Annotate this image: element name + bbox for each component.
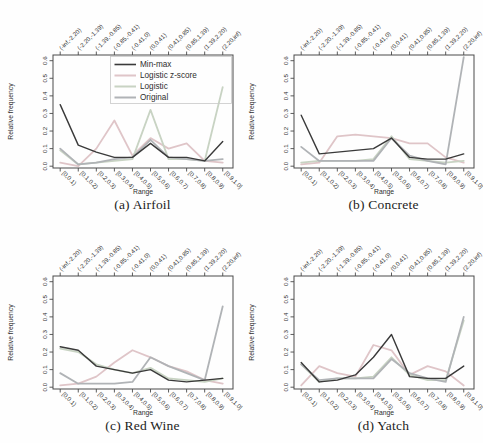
chart-svg: 0.00.10.20.30.40.50.6Relative frequency[… xyxy=(241,221,482,418)
x-tick-label-bottom: [0.8,0.9) xyxy=(205,169,226,190)
legend-label-min-max: Min-max xyxy=(140,60,171,69)
y-axis-title: Relative frequency xyxy=(248,304,256,361)
x-tick-label-bottom: [0.6,0.7) xyxy=(410,390,431,411)
series-line-original xyxy=(301,317,464,382)
x-tick-label-bottom: [0.7,0.8) xyxy=(187,390,208,411)
legend-label-logistic-z-score: Logistic z-score xyxy=(140,71,197,80)
chart-panel-yatch: 0.00.10.20.30.40.50.6Relative frequency[… xyxy=(241,221,482,442)
x-tick-label-bottom: [0.8,0.9) xyxy=(446,390,467,411)
x-tick-label-bottom: [0.7,0.8) xyxy=(187,169,208,190)
y-tick-label: 0.1 xyxy=(282,144,289,153)
chart-panel-concrete: 0.00.10.20.30.40.50.6Relative frequency[… xyxy=(241,0,482,221)
x-tick-label-bottom: [0.2,0.3) xyxy=(338,169,359,190)
y-axis-title: Relative frequency xyxy=(7,304,15,361)
x-tick-label-bottom: [0.5,0.6) xyxy=(151,169,172,190)
y-tick-label: 0.4 xyxy=(41,312,48,321)
x-tick-label-bottom: [0.2,0.3) xyxy=(338,390,359,411)
y-tick-label: 0.1 xyxy=(41,144,48,153)
x-tick-label-bottom: [0.8,0.9) xyxy=(446,169,467,190)
chart-panel-airfoil: 0.00.10.20.30.40.50.6Relative frequency[… xyxy=(0,0,241,221)
x-axis-title: Range xyxy=(374,188,394,196)
figure-grid: 0.00.10.20.30.40.50.6Relative frequency[… xyxy=(0,0,483,443)
legend: Min-maxLogistic z-scoreLogisticOriginal xyxy=(111,57,232,104)
series-line-logistic xyxy=(301,320,464,382)
x-tick-label-bottom: [0.7,0.8) xyxy=(428,390,449,411)
x-tick-label-bottom: [0,0.1) xyxy=(302,169,319,186)
y-tick-label: 0.4 xyxy=(282,312,289,321)
x-axis-title: Range xyxy=(374,409,394,417)
y-tick-label: 0.0 xyxy=(41,161,48,170)
y-tick-label: 0.5 xyxy=(282,73,289,82)
x-tick-label-bottom: [0.9,1.0] xyxy=(465,390,483,411)
chart-caption-redwine: (c) Red Wine xyxy=(0,418,241,434)
y-tick-label: 0.1 xyxy=(41,365,48,374)
chart-svg: 0.00.10.20.30.40.50.6Relative frequency[… xyxy=(0,0,241,197)
x-tick-label-bottom: [0,0.1) xyxy=(302,390,319,407)
y-tick-label: 0.6 xyxy=(41,56,48,65)
y-tick-label: 0.6 xyxy=(282,56,289,65)
x-tick-label-bottom: [0.6,0.7) xyxy=(169,390,190,411)
x-tick-label-bottom: [0.1,0.2) xyxy=(320,390,341,411)
x-tick-label-bottom: [0.5,0.6) xyxy=(151,390,172,411)
x-tick-label-bottom: [0.8,0.9) xyxy=(205,390,226,411)
plot-frame xyxy=(294,55,474,168)
chart-svg: 0.00.10.20.30.40.50.6Relative frequency[… xyxy=(0,221,241,418)
y-tick-label: 0.1 xyxy=(282,365,289,374)
y-tick-label: 0.4 xyxy=(41,91,48,100)
legend-label-logistic: Logistic xyxy=(140,82,168,91)
x-tick-label-bottom: [0.5,0.6) xyxy=(392,169,413,190)
x-tick-label-top: (0,0.41) xyxy=(389,31,409,51)
y-tick-label: 0.3 xyxy=(41,330,48,339)
x-tick-label-bottom: [0.5,0.6) xyxy=(392,390,413,411)
y-tick-label: 0.3 xyxy=(282,109,289,118)
series-line-original xyxy=(301,57,464,164)
y-tick-label: 0.0 xyxy=(282,161,289,170)
x-axis-title: Range xyxy=(133,188,153,196)
x-tick-label-bottom: [0.6,0.7) xyxy=(169,169,190,190)
series-line-min-max xyxy=(301,334,464,381)
y-tick-label: 0.2 xyxy=(282,347,289,356)
chart-caption-airfoil: (a) Airfoil xyxy=(0,197,241,213)
y-tick-label: 0.5 xyxy=(41,73,48,82)
x-tick-label-bottom: [0.7,0.8) xyxy=(428,169,449,190)
y-tick-label: 0.3 xyxy=(41,109,48,118)
x-tick-label-bottom: [0.1,0.2) xyxy=(79,169,100,190)
y-tick-label: 0.6 xyxy=(282,277,289,286)
y-tick-label: 0.0 xyxy=(41,382,48,391)
x-tick-label-bottom: [0.9,1.0] xyxy=(465,169,483,190)
chart-svg: 0.00.10.20.30.40.50.6Relative frequency[… xyxy=(241,0,482,197)
y-axis-title: Relative frequency xyxy=(248,83,256,140)
x-tick-label-top: (0,0.41) xyxy=(389,252,409,272)
y-tick-label: 0.6 xyxy=(41,277,48,286)
chart-caption-yatch: (d) Yatch xyxy=(241,418,482,434)
y-tick-label: 0.5 xyxy=(282,294,289,303)
x-axis-title: Range xyxy=(133,409,153,417)
x-tick-label-top: (0,0.41) xyxy=(148,31,168,51)
x-tick-label-top: (0,0.41) xyxy=(148,252,168,272)
y-tick-label: 0.2 xyxy=(41,347,48,356)
x-tick-label-bottom: [0.1,0.2) xyxy=(79,390,100,411)
y-tick-label: 0.2 xyxy=(282,126,289,135)
x-tick-label-bottom: [0.6,0.7) xyxy=(410,169,431,190)
chart-panel-redwine: 0.00.10.20.30.40.50.6Relative frequency[… xyxy=(0,221,241,442)
x-tick-label-bottom: [0.1,0.2) xyxy=(320,169,341,190)
x-tick-label-bottom: [0,0.1) xyxy=(61,169,78,186)
legend-label-original: Original xyxy=(140,93,168,102)
y-tick-label: 0.2 xyxy=(41,126,48,135)
chart-caption-concrete: (b) Concrete xyxy=(241,197,482,213)
y-tick-label: 0.5 xyxy=(41,294,48,303)
x-tick-label-bottom: [0,0.1) xyxy=(61,390,78,407)
y-tick-label: 0.3 xyxy=(282,330,289,339)
y-tick-label: 0.4 xyxy=(282,91,289,100)
x-tick-label-bottom: [0.2,0.3) xyxy=(97,169,118,190)
y-tick-label: 0.0 xyxy=(282,382,289,391)
y-axis-title: Relative frequency xyxy=(7,83,15,140)
x-tick-label-bottom: [0.2,0.3) xyxy=(97,390,118,411)
